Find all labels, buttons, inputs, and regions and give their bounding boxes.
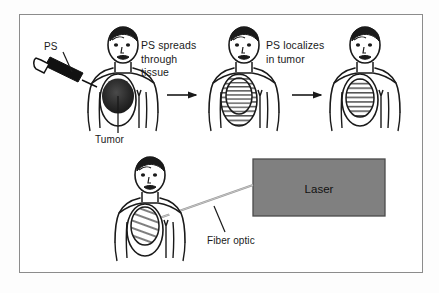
- label-laser: Laser: [253, 183, 385, 195]
- label-ps-localizes-in-tumor: PS localizes in tumor: [266, 39, 324, 66]
- label-fiber-optic: Fiber optic: [207, 234, 255, 248]
- label-ps-spreads-through-tissue: PS spreads through tissue: [141, 39, 196, 80]
- label-tumor: Tumor: [95, 133, 124, 147]
- diagram-artwork: [0, 0, 439, 293]
- label-ps: PS: [44, 40, 58, 54]
- diagram-canvas: PS PS spreads through tissue PS localize…: [0, 0, 439, 293]
- patient-figure-4: [115, 157, 185, 261]
- syringe-icon: [34, 52, 97, 87]
- patient-figure-3: [330, 27, 400, 131]
